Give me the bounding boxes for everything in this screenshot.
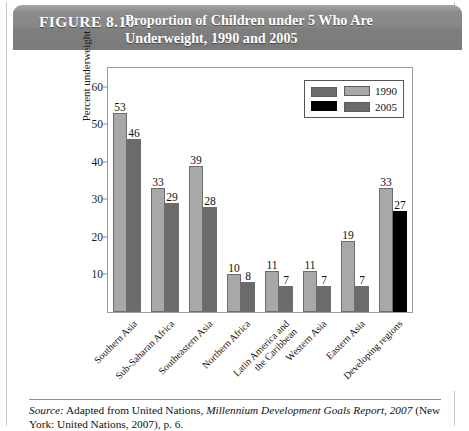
legend-swatch-2005: [344, 102, 370, 112]
bar-value-label: 19: [342, 229, 354, 241]
bar-value-label: 39: [190, 154, 202, 166]
bar-2005[interactable]: 7: [279, 286, 293, 312]
bar-1990[interactable]: 11: [303, 271, 317, 312]
bar-value-label: 7: [283, 274, 289, 286]
figure-title: Proportion of Children under 5 Who Are U…: [125, 12, 455, 47]
bar-value-label: 10: [228, 262, 240, 274]
source-label: Source:: [29, 404, 64, 416]
bar-value-label: 53: [114, 101, 126, 113]
bar-value-label: 29: [166, 191, 178, 203]
bar-value-label: 11: [266, 259, 277, 271]
bar-1990[interactable]: 19: [341, 241, 355, 312]
y-tick-mark: [103, 86, 108, 87]
y-tick-label: 40: [69, 156, 103, 168]
bar-group: 3327Developing regions: [374, 188, 412, 312]
y-tick-label: 30: [69, 193, 103, 205]
legend-item-2005: 2005: [344, 101, 397, 113]
bar-2005[interactable]: 7: [355, 286, 369, 312]
bar-group: 108Northern Africa: [222, 274, 260, 312]
bar-group: 3329Sub-Saharan Africa: [146, 188, 184, 312]
y-tick-label: 10: [69, 268, 103, 280]
legend-entries: 1990 2005: [344, 85, 397, 113]
y-tick-label: 20: [69, 231, 103, 243]
bar-group: 3928Southeastern Asia: [184, 166, 222, 312]
bar-1990[interactable]: 11: [265, 271, 279, 312]
y-axis-label: Percent underweight: [80, 0, 92, 156]
source-text-part1: Adapted from United Nations,: [64, 404, 206, 416]
legend-extra-swatch-column: [311, 87, 337, 111]
bar-group: 117Latin America andthe Caribbean: [260, 271, 298, 312]
bar-value-label: 33: [380, 176, 392, 188]
source-publication-title: Millennium Development Goals Report, 200…: [206, 404, 412, 416]
bar-2005[interactable]: 7: [317, 286, 331, 312]
bar-2005[interactable]: 8: [241, 282, 255, 312]
bar-1990[interactable]: 33: [151, 188, 165, 312]
bar-value-label: 7: [321, 274, 327, 286]
bar-group: 117Western Asia: [298, 271, 336, 312]
bar-2005[interactable]: 28: [203, 207, 217, 312]
bar-1990[interactable]: 39: [189, 166, 203, 312]
bar-value-label: 27: [394, 199, 406, 211]
black-swatch: [311, 101, 337, 111]
bar-1990[interactable]: 10: [227, 274, 241, 312]
legend-label-1990: 1990: [375, 85, 397, 97]
source-note: Source: Adapted from United Nations, Mil…: [29, 404, 445, 431]
dark-gray-swatch: [311, 87, 337, 97]
source-divider: [29, 399, 441, 400]
chart-area: 1020304050605346Southern Asia3329Sub-Sah…: [13, 50, 462, 391]
bar-1990[interactable]: 33: [379, 188, 393, 312]
bar-1990[interactable]: 53: [113, 113, 127, 312]
bar-value-label: 28: [204, 195, 216, 207]
plot-box: 1020304050605346Southern Asia3329Sub-Sah…: [107, 67, 413, 313]
bar-2005[interactable]: 46: [127, 139, 141, 312]
legend-item-1990: 1990: [344, 85, 397, 97]
legend-label-2005: 2005: [375, 101, 397, 113]
bar-group: 197Eastern Asia: [336, 241, 374, 312]
bar-group: 5346Southern Asia: [108, 113, 146, 312]
page-frame: FIGURE 8.10 Proportion of Children under…: [6, 2, 455, 426]
bar-value-label: 8: [245, 270, 251, 282]
bar-2005[interactable]: 27: [393, 211, 407, 312]
chart-legend: 1990 2005: [304, 80, 404, 118]
bar-value-label: 7: [359, 274, 365, 286]
bar-value-label: 33: [152, 176, 164, 188]
bar-value-label: 11: [304, 259, 315, 271]
bar-2005[interactable]: 29: [165, 203, 179, 312]
bar-value-label: 46: [128, 127, 140, 139]
legend-swatch-1990: [344, 86, 370, 96]
